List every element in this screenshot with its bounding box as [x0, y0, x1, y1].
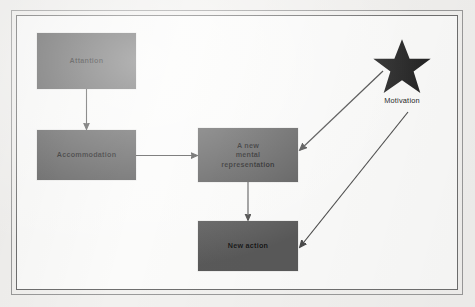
- node-accommodation-label: Accommodation: [54, 150, 120, 160]
- star-icon: [371, 38, 433, 96]
- node-new-action-label: New action: [225, 241, 271, 251]
- motivation-label: Motivation: [366, 96, 438, 105]
- node-new-mental-representation-label: A new mental representation: [218, 141, 277, 170]
- node-attention[interactable]: Attantion: [37, 33, 136, 89]
- node-accommodation[interactable]: Accommodation: [37, 130, 136, 180]
- node-new-action[interactable]: New action: [198, 221, 298, 271]
- node-attention-label: Attantion: [67, 56, 107, 66]
- figure-page: Attantion Accommodation A new mental rep…: [0, 0, 475, 307]
- node-new-mental-representation[interactable]: A new mental representation: [198, 128, 298, 182]
- edge-motivation-to-newaction: [300, 112, 408, 247]
- diagram-canvas: Attantion Accommodation A new mental rep…: [0, 0, 475, 307]
